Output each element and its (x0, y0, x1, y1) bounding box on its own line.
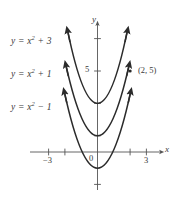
curve-bottom-right-arrow (128, 91, 131, 103)
x-axis-label: x (165, 144, 169, 154)
curve-label-bottom: y = x2 − 1 (11, 100, 52, 112)
x-tick-label-3: 3 (144, 155, 148, 165)
curve-top-right-arrow (125, 29, 128, 42)
y-axis-label: y (92, 14, 96, 24)
point-marker-2-5 (129, 69, 132, 72)
curve-bottom-left-arrow (64, 91, 67, 103)
origin-label: 0 (89, 153, 93, 163)
y-tick-label-5: 5 (85, 64, 89, 74)
x-tick-label--3: −3 (43, 155, 52, 165)
curve-label-top: y = x2 + 3 (11, 34, 52, 46)
curve-top-left-arrow (67, 29, 70, 42)
curve-label-middle: y = x2 + 1 (11, 67, 52, 79)
curve-middle-left-arrow (66, 64, 69, 76)
parabola-family-figure: y = x2 + 3 y = x2 + 1 y = x2 − 1 (2, 5) … (0, 0, 177, 201)
point-label-2-5: (2, 5) (138, 65, 156, 75)
